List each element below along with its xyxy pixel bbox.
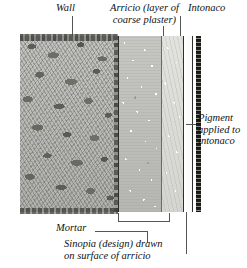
leader-pigment-arrow [186,124,196,125]
leader-caption-right-rule [186,212,187,254]
label-intonaco: Intonaco [188,2,225,14]
layer-arricio [118,36,161,212]
rule-arricio-sinopia [161,36,162,212]
caption-sinopia: Sinopia (design) drawn on surface of arr… [64,238,163,261]
label-wall: Wall [56,2,75,14]
fresco-layer-diagram [20,36,186,212]
label-mortar: Mortar [56,222,86,234]
bracket-sinopia-right [169,213,170,222]
rule-sinopia-intonaco [183,36,184,212]
bracket-sinopia-top [118,221,170,222]
rule-wall-arricio [118,36,119,212]
layer-wall [20,36,118,212]
wall-rough-top-edge [20,34,118,41]
label-pigment: Pigment applied to intonaco [198,112,240,147]
label-arricio: Arricio (layer of coarse plaster) [110,2,179,25]
leader-mortar-horizontal [95,231,148,232]
wall-rough-bottom-edge [20,208,118,214]
layer-sinopia [161,36,183,212]
